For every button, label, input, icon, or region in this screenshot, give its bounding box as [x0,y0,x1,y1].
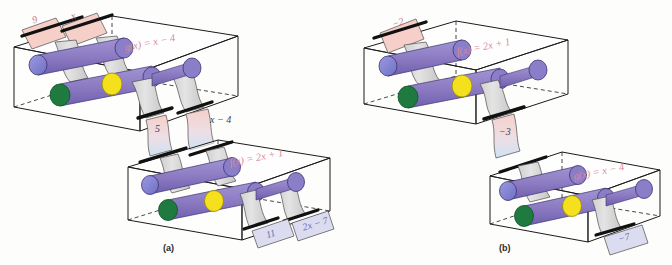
roller-cap-green-a2 [159,200,178,221]
roller-cap-green-b [398,86,418,108]
figure-canvas [0,0,672,265]
roller-cap-blue-b2 [500,182,517,201]
roller-cap-yellow-a [102,73,122,95]
roller-cap-purple-b6 [636,180,653,199]
intermediate-value-b1: −3 [499,126,511,137]
panel-caption-b: (b) [499,243,511,253]
function-machine-figure: 9 x g(x) = x − 4 5 x − 4 f(x) = 2x + 1 1… [0,0,672,265]
roller-cap-yellow-b2 [563,196,582,217]
machine-b-bottom [490,152,660,255]
roller-cap-purple-b3 [529,60,547,80]
roller-cap-blue-a2 [142,176,159,195]
machine-b-top [364,19,568,158]
roller-cap-purple-a3 [183,58,201,78]
roller-cap-green-a [50,84,70,106]
panel-caption-a: (a) [163,243,174,253]
roller-cap-yellow-a2 [205,191,224,212]
roller-cap-purple-a6 [288,173,305,192]
machine-a-top [14,13,238,156]
intermediate-value-a2: x − 4 [210,114,231,125]
intermediate-value-a1: 5 [155,123,160,134]
roller-cap-blue-b1 [379,56,397,76]
roller-cap-yellow-b [452,75,472,97]
roller-cap-green-b2 [515,206,534,227]
roller-cap-blue-a1 [29,55,47,75]
